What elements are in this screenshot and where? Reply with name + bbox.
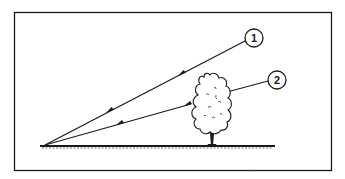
sight-line-2 [45,81,268,145]
tree-icon [192,73,232,146]
label-2-text: 2 [274,74,280,86]
label-2-callout: 2 [268,71,286,89]
line-of-sight-diagram: 1 2 [0,0,345,179]
arrow-icon [106,107,114,113]
ground-line [40,146,275,148]
arrow-icon [178,70,186,76]
label-1-callout: 1 [245,29,263,47]
label-1-text: 1 [251,32,257,44]
stray-mark [250,170,251,171]
